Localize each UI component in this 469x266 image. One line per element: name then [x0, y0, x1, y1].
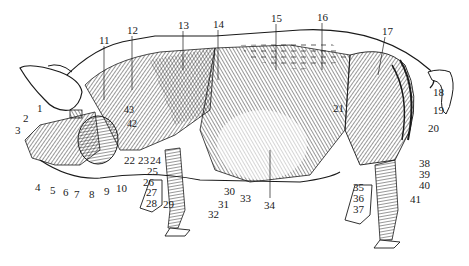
- label-37: 37: [353, 204, 364, 215]
- label-21: 21: [333, 103, 344, 114]
- label-9: 9: [104, 186, 110, 197]
- label-40: 40: [419, 180, 430, 191]
- label-31: 31: [218, 199, 229, 210]
- label-5: 5: [50, 185, 56, 196]
- pig-outline-drawing: [0, 0, 469, 266]
- label-32: 32: [208, 209, 219, 220]
- label-11: 11: [99, 35, 110, 46]
- label-7: 7: [74, 189, 80, 200]
- label-13: 13: [178, 20, 189, 31]
- label-42: 42: [127, 118, 137, 129]
- label-17: 17: [382, 26, 393, 37]
- label-22: 22: [124, 155, 135, 166]
- label-28: 28: [146, 198, 157, 209]
- label-41: 41: [410, 194, 421, 205]
- label-20: 20: [428, 123, 439, 134]
- label-4: 4: [35, 182, 41, 193]
- label-30: 30: [224, 186, 235, 197]
- label-34: 34: [264, 200, 275, 211]
- label-43: 43: [124, 104, 134, 115]
- label-12: 12: [127, 25, 138, 36]
- label-16: 16: [317, 12, 328, 23]
- label-29: 29: [163, 199, 174, 210]
- label-18: 18: [433, 87, 444, 98]
- label-15: 15: [271, 13, 282, 24]
- label-33: 33: [240, 193, 251, 204]
- label-3: 3: [15, 125, 21, 136]
- label-8: 8: [89, 189, 95, 200]
- label-2: 2: [23, 113, 29, 124]
- pig-muscle-diagram: 1 2 3 4 5 6 7 8 9 10 11 12 13 14 15 16 1…: [0, 0, 469, 266]
- label-19: 19: [433, 105, 444, 116]
- label-14: 14: [213, 19, 224, 30]
- label-1: 1: [37, 103, 43, 114]
- label-10: 10: [116, 183, 127, 194]
- label-6: 6: [63, 187, 69, 198]
